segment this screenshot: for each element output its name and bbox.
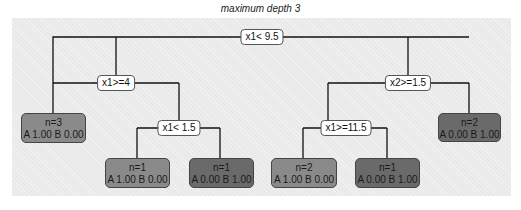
leaf-count: n=1 bbox=[106, 162, 169, 174]
leaf-node: n=2 A 1.00 B 0.00 bbox=[271, 158, 337, 188]
leaf-node: n=3 A 1.00 B 0.00 bbox=[21, 113, 86, 143]
split-node-left-right: x1< 1.5 bbox=[157, 120, 200, 136]
leaf-node: n=2 A 0.00 B 1.00 bbox=[438, 113, 501, 142]
leaf-count: n=2 bbox=[272, 162, 336, 174]
leaf-probabilities: A 0.00 B 1.00 bbox=[356, 174, 419, 186]
leaf-probabilities: A 1.00 B 0.00 bbox=[106, 174, 169, 186]
leaf-node: n=1 A 0.00 B 1.00 bbox=[355, 158, 420, 188]
leaf-node: n=1 A 1.00 B 0.00 bbox=[105, 158, 170, 188]
leaf-probabilities: A 1.00 B 0.00 bbox=[22, 129, 85, 141]
leaf-count: n=1 bbox=[190, 162, 253, 174]
split-node-right-left: x1>=11.5 bbox=[321, 120, 372, 136]
split-node-left: x1>=4 bbox=[97, 75, 135, 91]
leaf-node: n=1 A 0.00 B 1.00 bbox=[189, 158, 254, 188]
leaf-count: n=1 bbox=[356, 162, 419, 174]
split-node-right: x2>=1.5 bbox=[385, 75, 431, 91]
leaf-probabilities: A 0.00 B 1.00 bbox=[190, 174, 253, 186]
leaf-count: n=3 bbox=[22, 117, 85, 129]
split-node-root: x1< 9.5 bbox=[240, 29, 283, 45]
leaf-count: n=2 bbox=[439, 117, 500, 129]
leaf-probabilities: A 1.00 B 0.00 bbox=[272, 174, 336, 186]
leaf-probabilities: A 0.00 B 1.00 bbox=[439, 129, 500, 141]
